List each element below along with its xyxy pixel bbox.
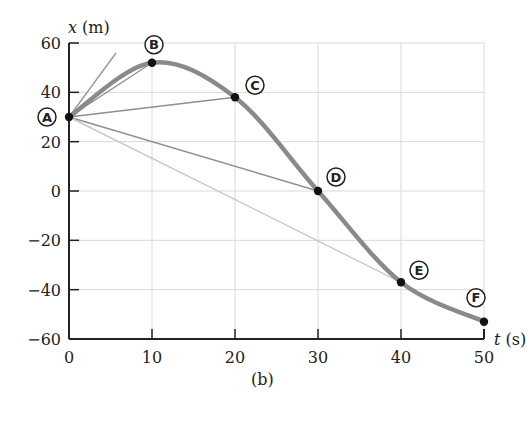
y-tick-label: −40 [27,281,61,300]
point-F [480,318,488,326]
y-tick-label: 0 [51,182,61,201]
point-E [397,278,405,286]
position-curve [69,62,484,321]
y-tick-label: −60 [27,330,61,349]
point-label-A: A [42,110,52,125]
y-tick-label: 20 [41,133,61,152]
x-tick-label: 50 [474,348,494,367]
point-C [231,93,239,101]
x-tick-label: 0 [64,348,74,367]
point-label-B: B [149,37,159,52]
y-tick-label: 60 [41,34,61,53]
point-label-E: E [415,263,424,278]
point-label-F: F [472,290,481,305]
x-tick-label: 10 [142,348,162,367]
x-tick-label: 20 [225,348,245,367]
point-label-C: C [250,78,260,93]
x-tick-label: 30 [308,348,328,367]
x-axis-label: t (s) [494,330,526,349]
point-label-D: D [331,170,342,185]
point-B [148,59,156,67]
y-tick-label: 40 [41,83,61,102]
position-time-graph: −60−40−20020406001020304050 ABCDEF x (m)… [0,0,528,424]
y-axis-label: x (m) [68,18,110,37]
secant-AD [69,117,318,191]
y-tick-label: −20 [27,231,61,250]
x-tick-label: 40 [391,348,411,367]
data-points: ABCDEF [38,36,488,326]
figure-caption: (b) [251,370,274,389]
point-A [65,113,73,121]
point-D [314,187,322,195]
